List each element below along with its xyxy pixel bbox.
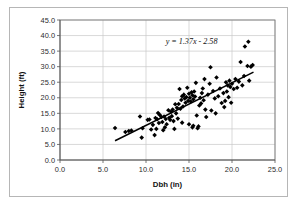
data-point xyxy=(203,107,208,112)
data-point xyxy=(208,65,213,70)
trendline-equation: y = 1.37x - 2.58 xyxy=(165,37,218,46)
y-axis-title: Height (ft) xyxy=(17,71,26,108)
data-point xyxy=(213,96,218,101)
data-points xyxy=(113,39,255,139)
y-tick-label: 20.0 xyxy=(41,93,55,102)
data-point xyxy=(154,127,159,132)
data-point xyxy=(245,64,250,69)
data-point xyxy=(176,116,181,121)
data-point xyxy=(222,105,227,110)
data-point xyxy=(194,81,199,86)
y-tick-label: 30.0 xyxy=(41,62,55,71)
data-point xyxy=(223,99,228,104)
data-point xyxy=(138,114,143,119)
y-tick-label: 15.0 xyxy=(41,109,55,118)
data-point xyxy=(229,100,234,105)
x-tick-label: 15.0 xyxy=(182,165,196,174)
x-tick-label: 5.0 xyxy=(98,165,108,174)
data-point xyxy=(149,127,154,132)
data-point xyxy=(238,60,243,65)
y-axis-ticks: 0.05.010.015.020.025.030.035.040.045.0 xyxy=(41,16,60,165)
y-tick-label: 40.0 xyxy=(41,31,55,40)
x-tick-label: 10.0 xyxy=(139,165,153,174)
data-point xyxy=(200,86,205,91)
data-point xyxy=(187,122,192,127)
data-point xyxy=(200,91,205,96)
data-point xyxy=(139,135,144,140)
y-tick-label: 0.0 xyxy=(45,156,55,165)
annotations: y = 1.37x - 2.58 xyxy=(165,37,218,46)
data-point xyxy=(243,44,248,49)
y-tick-label: 35.0 xyxy=(41,47,55,56)
data-point xyxy=(214,75,219,80)
y-tick-label: 5.0 xyxy=(45,140,55,149)
data-point xyxy=(226,95,231,100)
x-axis-title: Dbh (in) xyxy=(153,180,183,189)
scatter-plot: 0.05.010.015.020.025.030.035.040.045.0 0… xyxy=(10,8,287,196)
x-axis-ticks: 0.05.010.015.020.025.0 xyxy=(55,160,282,174)
data-point xyxy=(180,120,185,125)
chart-frame: 0.05.010.015.020.025.030.035.040.045.0 0… xyxy=(9,7,288,197)
data-point xyxy=(177,87,182,92)
data-point xyxy=(202,77,207,82)
y-tick-label: 10.0 xyxy=(41,125,55,134)
data-point xyxy=(201,98,206,103)
data-point xyxy=(219,101,224,106)
data-point xyxy=(240,83,245,88)
data-point xyxy=(123,130,128,135)
x-tick-label: 25.0 xyxy=(268,165,282,174)
data-point xyxy=(152,133,157,138)
data-point xyxy=(213,111,218,116)
data-point xyxy=(172,127,177,132)
y-tick-label: 25.0 xyxy=(41,78,55,87)
data-point xyxy=(209,108,214,113)
data-point xyxy=(204,115,209,120)
x-tick-label: 0.0 xyxy=(55,165,65,174)
x-tick-label: 20.0 xyxy=(225,165,239,174)
data-point xyxy=(246,39,251,44)
y-tick-label: 45.0 xyxy=(41,16,55,25)
data-point xyxy=(194,113,199,118)
data-point xyxy=(160,120,165,125)
data-point xyxy=(113,126,118,131)
